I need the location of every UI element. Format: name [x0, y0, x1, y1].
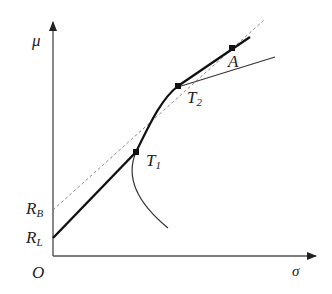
t2-label: T2: [187, 89, 202, 108]
diagram-canvas: μ σ O RB RL T1 T2 A: [0, 0, 332, 294]
y-axis-label: μ: [32, 32, 41, 49]
t1-label: T1: [146, 152, 161, 171]
rb-label: RB: [26, 200, 43, 219]
a-main: A: [228, 52, 238, 71]
frontier-upper: [178, 57, 275, 87]
diagram-svg: [0, 0, 332, 294]
a-label: A: [228, 53, 238, 70]
rl-sub: L: [36, 236, 42, 248]
rb-main: R: [26, 199, 36, 218]
point-a: [229, 45, 235, 51]
point-t1: [133, 149, 139, 155]
rl-main: R: [26, 228, 36, 247]
origin-label: O: [32, 264, 44, 281]
borrowing-line: [178, 37, 250, 86]
x-axis-label: σ: [292, 264, 299, 279]
frontier-segment-t1-t2: [136, 86, 178, 152]
lending-line: [53, 152, 136, 238]
rb-sub: B: [36, 207, 43, 219]
point-t2: [175, 83, 181, 89]
t1-sub: 1: [155, 159, 161, 171]
t2-sub: 2: [196, 96, 202, 108]
rl-label: RL: [26, 229, 43, 248]
